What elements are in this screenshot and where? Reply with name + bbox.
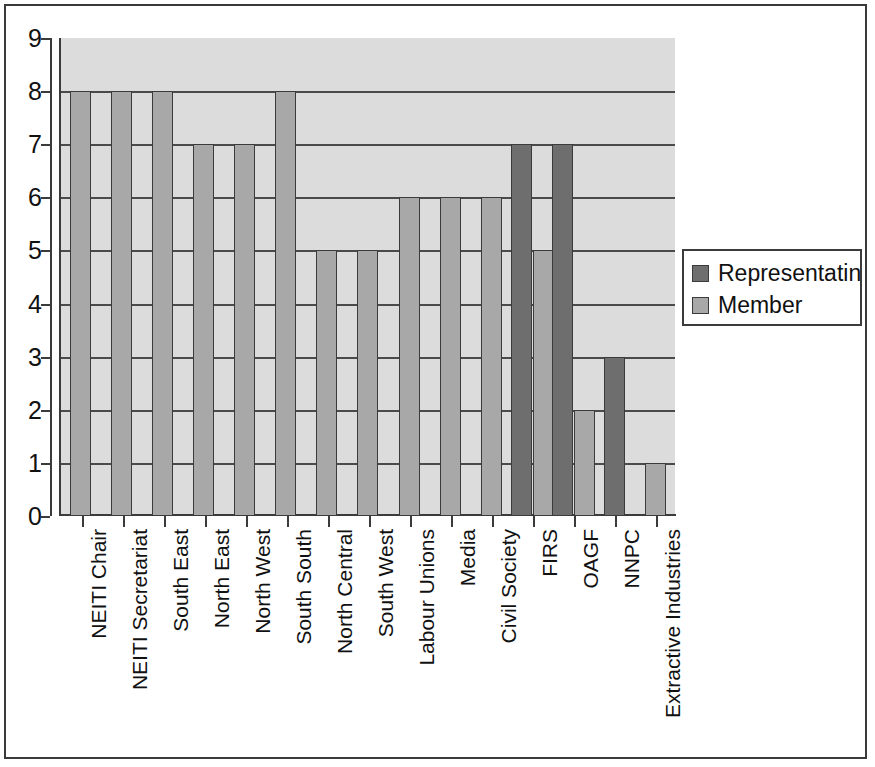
y-tick-label-9: 9 [28, 26, 42, 51]
x-tick-5 [287, 516, 289, 527]
x-tick-label-north-west: North West [252, 529, 273, 634]
bar-group [225, 38, 266, 516]
x-tick-13 [615, 516, 617, 527]
x-tick-label-south-south: South South [293, 529, 314, 645]
legend-item-member: Member [692, 289, 860, 321]
bar-member-firs[interactable] [533, 250, 554, 516]
bar-member-south-west[interactable] [357, 250, 378, 516]
legend-swatch-representative-icon [692, 265, 709, 282]
x-tick-label-oagf: OAGF [580, 529, 601, 589]
bar-group [390, 38, 431, 516]
x-tick-label-neiti-secretariat: NEITI Secretariat [129, 529, 150, 690]
x-tick-label-labour-unions: Labour Unions [416, 529, 437, 666]
x-tick-12 [574, 516, 576, 527]
bar-representatinve-oagf[interactable] [552, 144, 573, 516]
y-tick-label-1: 1 [28, 450, 42, 475]
x-axis-labels: NEITI ChairNEITI SecretariatSouth EastNo… [59, 529, 684, 761]
bar-member-oagf[interactable] [574, 410, 595, 516]
x-tick-label-north-east: North East [211, 529, 232, 628]
bar-group [554, 38, 595, 516]
x-tick-7 [369, 516, 371, 527]
y-tick-3 [41, 357, 50, 359]
x-tick-6 [328, 516, 330, 527]
chart-legend: Representatinve Member [682, 249, 862, 326]
y-tick-label-3: 3 [28, 344, 42, 369]
bar-member-labour-unions[interactable] [399, 197, 420, 516]
bar-group [184, 38, 225, 516]
legend-swatch-member-icon [692, 297, 709, 314]
y-tick-label-8: 8 [28, 79, 42, 104]
bar-member-south-south[interactable] [275, 91, 296, 516]
x-tick-label-nnpc: NNPC [621, 529, 642, 589]
bar-representatinve-firs[interactable] [511, 144, 532, 516]
bar-group [595, 38, 636, 516]
legend-label-representative: Representatinve [718, 262, 862, 285]
y-tick-0 [41, 516, 50, 518]
bar-group [431, 38, 472, 516]
x-tick-9 [451, 516, 453, 527]
x-tick-label-south-east: South East [170, 529, 191, 632]
bar-group [102, 38, 143, 516]
y-axis-line [50, 38, 52, 516]
bar-representatinve-nnpc[interactable] [604, 357, 625, 516]
y-tick-5 [41, 250, 50, 252]
x-tick-0 [82, 516, 84, 527]
x-tick-label-south-west: South West [375, 529, 396, 637]
y-tick-label-0: 0 [28, 504, 42, 529]
y-tick-label-5: 5 [28, 238, 42, 263]
y-tick-7 [41, 144, 50, 146]
x-tick-1 [123, 516, 125, 527]
bar-group [307, 38, 348, 516]
y-tick-9 [41, 38, 50, 40]
bar-group [266, 38, 307, 516]
x-tick-label-extractive-industries: Extractive Industries [662, 529, 683, 718]
bar-group [61, 38, 102, 516]
x-tick-label-neiti-chair: NEITI Chair [88, 529, 109, 639]
bar-group [472, 38, 513, 516]
bar-group [636, 38, 677, 516]
x-tick-label-civil-society: Civil Society [498, 529, 519, 643]
bar-member-south-east[interactable] [152, 91, 173, 516]
x-tick-14 [656, 516, 658, 527]
bar-member-north-east[interactable] [193, 144, 214, 516]
bar-group [513, 38, 554, 516]
bar-member-extractive-industries[interactable] [645, 463, 666, 516]
x-tick-label-north-central: North Central [334, 529, 355, 654]
x-tick-11 [533, 516, 535, 527]
y-tick-8 [41, 91, 50, 93]
bar-group [143, 38, 184, 516]
x-tick-2 [164, 516, 166, 527]
x-tick-8 [410, 516, 412, 527]
chart-frame: 0123456789 NEITI ChairNEITI SecretariatS… [4, 4, 867, 759]
plot-area [59, 38, 675, 516]
y-tick-4 [41, 304, 50, 306]
y-tick-label-7: 7 [28, 132, 42, 157]
bar-group [348, 38, 389, 516]
bar-member-neiti-chair[interactable] [70, 91, 91, 516]
bar-member-neiti-secretariat[interactable] [111, 91, 132, 516]
bar-member-civil-society[interactable] [481, 197, 502, 516]
y-tick-label-6: 6 [28, 185, 42, 210]
y-tick-2 [41, 410, 50, 412]
legend-label-member: Member [718, 294, 802, 317]
x-tick-3 [205, 516, 207, 527]
plot-wrapper: 0123456789 [50, 38, 675, 516]
bar-member-north-central[interactable] [316, 250, 337, 516]
y-tick-1 [41, 463, 50, 465]
x-tick-4 [246, 516, 248, 527]
y-tick-label-4: 4 [28, 291, 42, 316]
y-tick-6 [41, 197, 50, 199]
legend-item-representative: Representatinve [692, 257, 860, 289]
x-tick-label-media: Media [457, 529, 478, 586]
x-tick-10 [492, 516, 494, 527]
bar-member-north-west[interactable] [234, 144, 255, 516]
bar-member-media[interactable] [440, 197, 461, 516]
x-tick-label-firs: FIRS [539, 529, 560, 577]
y-tick-label-2: 2 [28, 397, 42, 422]
